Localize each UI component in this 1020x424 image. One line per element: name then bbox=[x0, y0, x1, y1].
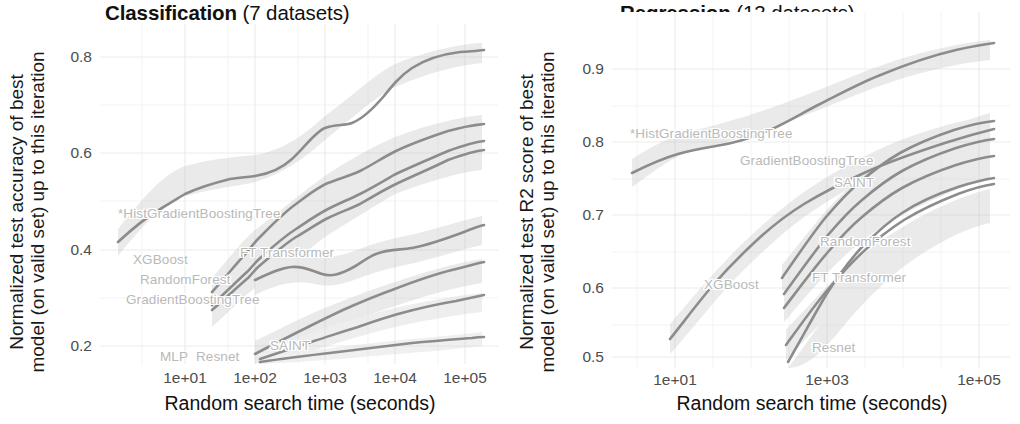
annotation-resnet: Resnet bbox=[196, 349, 239, 364]
xtick-label: 1e+03 bbox=[805, 371, 849, 389]
ytick-label: 0.7 bbox=[562, 206, 604, 224]
xtick-label: 1e+03 bbox=[303, 369, 347, 387]
ytick-label: 0.8 bbox=[52, 48, 92, 66]
y-axis-title-line1: Normalized test accuracy of best bbox=[6, 51, 27, 372]
annotation-mlp: MLP bbox=[160, 349, 188, 364]
annotation-ft-transformer: FT Transformer bbox=[812, 270, 906, 285]
xtick-label: 1e+01 bbox=[163, 369, 207, 387]
annotation-randomforest: RandomForest bbox=[820, 234, 911, 249]
plot-svg-classification bbox=[100, 24, 498, 364]
annotation-xgboost: XGBoost bbox=[704, 277, 759, 292]
confidence-bands bbox=[118, 43, 482, 364]
panel-classification: Normalized test accuracy of best model (… bbox=[0, 0, 510, 424]
panel-regression: Normalized test R2 score of best model (… bbox=[510, 0, 1020, 424]
xtick-label: 1e+05 bbox=[957, 371, 1001, 389]
annotation-ft-transformer: FT Transformer bbox=[240, 245, 334, 260]
ytick-label: 0.6 bbox=[562, 279, 604, 297]
annotation-gradientboostingtree: GradientBoostingTree bbox=[740, 153, 874, 168]
plot-area-regression: *HistGradientBoostingTree GradientBoosti… bbox=[612, 12, 1010, 368]
panel-title-main: Classification bbox=[105, 1, 237, 24]
annotation-randomforest: RandomForest bbox=[140, 272, 231, 287]
annotation-histgradientboostingtree: *HistGradientBoostingTree bbox=[630, 126, 793, 141]
ytick-label: 0.2 bbox=[52, 337, 92, 355]
figure-root: Normalized test accuracy of best model (… bbox=[0, 0, 1020, 424]
panel-title-classification: Classification (7 datasets) bbox=[105, 1, 350, 25]
y-axis-title-regression: Normalized test R2 score of best model (… bbox=[510, 0, 564, 424]
ytick-label: 0.9 bbox=[562, 60, 604, 78]
y-axis-title-line2: model (on valid set) up to this iteratio… bbox=[537, 51, 558, 372]
plot-area-classification: *HistGradientBoostingTree XGBoost Random… bbox=[100, 24, 498, 364]
annotation-gradientboostingtree: GradientBoostingTree bbox=[126, 292, 260, 307]
annotation-saint: SAINT bbox=[834, 175, 874, 190]
ytick-label: 0.6 bbox=[52, 144, 92, 162]
annotation-resnet: Resnet bbox=[812, 340, 855, 355]
ytick-label: 0.8 bbox=[562, 133, 604, 151]
plot-svg-regression bbox=[612, 12, 1010, 368]
annotation-xgboost: XGBoost bbox=[133, 252, 188, 267]
y-axis-title-line2: model (on valid set) up to this iteratio… bbox=[27, 51, 48, 372]
xtick-label: 1e+04 bbox=[373, 369, 417, 387]
xtick-label: 1e+01 bbox=[653, 371, 697, 389]
xtick-label: 1e+05 bbox=[443, 369, 487, 387]
ytick-label: 0.5 bbox=[562, 348, 604, 366]
ytick-label: 0.4 bbox=[52, 241, 92, 259]
x-axis-title-classification: Random search time (seconds) bbox=[165, 392, 436, 415]
xtick-label: 1e+02 bbox=[233, 369, 277, 387]
x-axis-title-regression: Random search time (seconds) bbox=[677, 392, 948, 415]
panel-title-sub: (7 datasets) bbox=[237, 1, 350, 24]
annotation-histgradientboostingtree: *HistGradientBoostingTree bbox=[118, 206, 281, 221]
y-axis-title-line1: Normalized test R2 score of best bbox=[516, 51, 537, 372]
y-axis-title-classification: Normalized test accuracy of best model (… bbox=[0, 0, 54, 424]
annotation-saint: SAINT bbox=[270, 338, 310, 353]
